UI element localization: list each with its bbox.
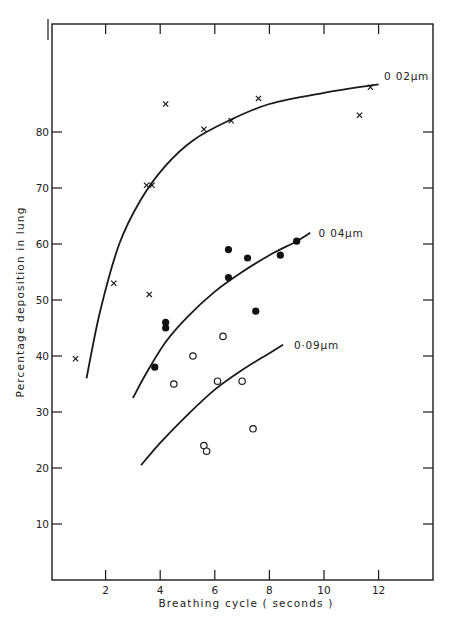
x-tick-label: 10 [317, 584, 330, 596]
filled-circle-marker [225, 274, 232, 281]
cross-marker [111, 281, 116, 286]
open-circle-marker [239, 378, 245, 384]
cross-marker [256, 96, 261, 101]
x-axis-title: Breathing cycle ( seconds ) [158, 597, 333, 609]
y-axis-title: Percentage deposition in lung [14, 206, 26, 397]
open-circle-marker [171, 381, 177, 387]
y-tick-label: 40 [36, 350, 49, 362]
x-tick-label: 6 [211, 584, 218, 596]
open-circle-marker [190, 353, 196, 359]
open-circle-marker [250, 426, 256, 432]
x-tick-label: 4 [157, 584, 164, 596]
filled-circle-marker [244, 254, 251, 261]
filled-circle-marker [293, 238, 300, 245]
x-tick-label: 12 [372, 584, 385, 596]
plot-border [52, 24, 433, 580]
y-tick-label: 20 [36, 462, 49, 474]
y-tick-label: 70 [36, 182, 49, 194]
filled-circle-marker [162, 324, 169, 331]
cross-marker [163, 101, 168, 106]
y-tick-label: 10 [36, 518, 49, 530]
cross-marker [147, 292, 152, 297]
filled-circle-marker [225, 246, 232, 253]
filled-circle-marker [277, 252, 284, 259]
x-tick-label: 8 [266, 584, 273, 596]
y-tick-label: 60 [36, 238, 49, 250]
series-label-0: 0 02µm [384, 70, 429, 82]
series-label-2: 0·09µm [294, 339, 339, 351]
cross-marker [73, 356, 78, 361]
cross-marker [201, 127, 206, 132]
filled-circle-marker [151, 364, 158, 371]
data-points [73, 85, 373, 455]
fit-curve-1 [133, 233, 310, 398]
y-tick-label: 50 [36, 294, 49, 306]
fit-curves [86, 84, 378, 465]
y-tick-label: 80 [36, 126, 49, 138]
x-tick-label: 2 [102, 584, 109, 596]
axis-ticks: 246810121020304050607080 [36, 24, 433, 596]
open-circle-marker [203, 448, 209, 454]
chart: 246810121020304050607080 0 02µm0 04µm0·0… [0, 0, 454, 624]
plot-frame [48, 19, 433, 580]
open-circle-marker [220, 333, 226, 339]
cross-marker [357, 113, 362, 118]
open-circle-marker [214, 378, 220, 384]
series-labels: 0 02µm0 04µm0·09µm [294, 70, 429, 351]
cross-marker [144, 183, 149, 188]
y-tick-label: 30 [36, 406, 49, 418]
filled-circle-marker [252, 308, 259, 315]
fit-curve-2 [141, 345, 283, 465]
series-label-1: 0 04µm [319, 227, 364, 239]
